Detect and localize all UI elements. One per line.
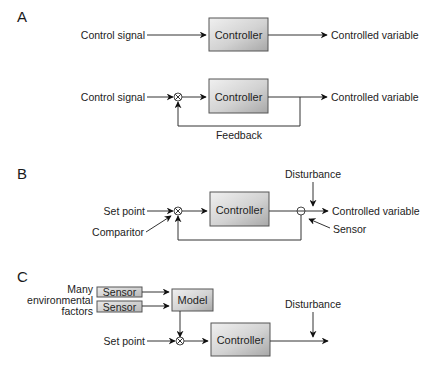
comparator-icon [174, 207, 182, 215]
controller-label: Controller [215, 29, 263, 41]
comparitor-label: Comparitor [92, 226, 144, 238]
controller-label: Controller [216, 204, 264, 216]
set-point-label: Set point [104, 335, 146, 347]
panel-b: B Disturbance Set point Controller Contr… [17, 165, 420, 240]
model-label: Model [178, 294, 208, 306]
comparitor-pointer-arrow-icon [146, 216, 171, 232]
comparator-icon [176, 337, 184, 345]
comparator-icon [174, 93, 182, 101]
controlled-variable-label: Controlled variable [332, 205, 420, 217]
controller-label: Controller [217, 334, 265, 346]
sensor-label: Sensor [333, 223, 367, 235]
disturbance-label: Disturbance [285, 168, 341, 180]
panel-label-a: A [17, 8, 27, 25]
panel-a: A Control signal Controller Controlled v… [17, 8, 419, 141]
controller-label: Controller [215, 91, 263, 103]
control-systems-diagram: A Control signal Controller Controlled v… [0, 0, 429, 367]
disturbance-label: Disturbance [285, 298, 341, 310]
control-signal-label: Control signal [81, 29, 145, 41]
feedback-label: Feedback [216, 129, 263, 141]
sensor-node-icon [297, 207, 305, 215]
sensor-pointer-arrow-icon [309, 219, 330, 228]
sensor-label: Sensor [103, 286, 137, 298]
closed-loop-diagram: Control signal Controller Controlled var… [81, 79, 419, 141]
sensor-label: Sensor [103, 301, 137, 313]
open-loop-diagram: Control signal Controller Controlled var… [81, 18, 419, 51]
factors-label-line-3: factors [61, 305, 93, 317]
panel-c: C Many environmental factors Sensor Sens… [17, 268, 341, 356]
panel-label-c: C [17, 268, 28, 285]
controlled-variable-label: Controlled variable [331, 29, 419, 41]
control-signal-label: Control signal [81, 91, 145, 103]
controlled-variable-label: Controlled variable [331, 91, 419, 103]
set-point-label: Set point [104, 205, 146, 217]
panel-label-b: B [17, 165, 27, 182]
